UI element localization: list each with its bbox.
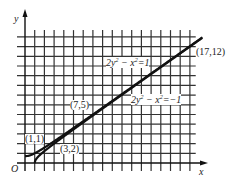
point-label-1-1: (1,1) (25, 134, 44, 144)
equation-label-lower: 2y2 − x2=−1 (131, 94, 181, 105)
x-axis-label: x (199, 167, 203, 177)
origin-label: O (11, 164, 18, 174)
point-label-17-12: (17,12) (196, 47, 225, 57)
point-label-3-2: (3,2) (60, 144, 79, 154)
equation-label-upper: 2y2 − x2=1 (106, 57, 149, 68)
hyperbola-grid-chart (0, 0, 230, 185)
y-axis-label: y (14, 14, 18, 24)
point-label-7-5: (7,5) (70, 100, 89, 110)
